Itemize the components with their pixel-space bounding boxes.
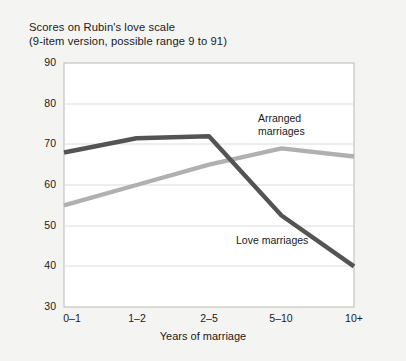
x-tick-label-10-plus: 10+ — [324, 312, 384, 324]
y-tick-label-50: 50 — [30, 219, 56, 231]
annotation-arranged-marriages: Arranged marriages — [258, 112, 305, 138]
plot-area: 90 80 70 60 50 40 30 0–1 1–2 2–5 5–10 10… — [0, 0, 406, 361]
x-axis-title: Years of marriage — [0, 330, 406, 342]
x-tick-label-1-2: 1–2 — [107, 312, 167, 324]
annotation-arranged-line-2: marriages — [258, 125, 305, 137]
y-tick-label-40: 40 — [30, 259, 56, 271]
x-tick-label-2-5: 2–5 — [179, 312, 239, 324]
y-tick-label-60: 60 — [30, 178, 56, 190]
line-chart-svg — [0, 0, 406, 361]
y-tick-label-30: 30 — [30, 300, 56, 312]
y-tick-label-80: 80 — [30, 97, 56, 109]
annotation-love-marriages: Love marriages — [236, 234, 308, 247]
y-tick-label-70: 70 — [30, 137, 56, 149]
x-tick-label-0-1: 0–1 — [42, 312, 102, 324]
annotation-arranged-line-1: Arranged — [258, 112, 301, 124]
y-tick-label-90: 90 — [30, 56, 56, 68]
chart-figure: Scores on Rubin's love scale (9-item ver… — [0, 0, 406, 361]
x-tick-label-5-10: 5–10 — [251, 312, 311, 324]
